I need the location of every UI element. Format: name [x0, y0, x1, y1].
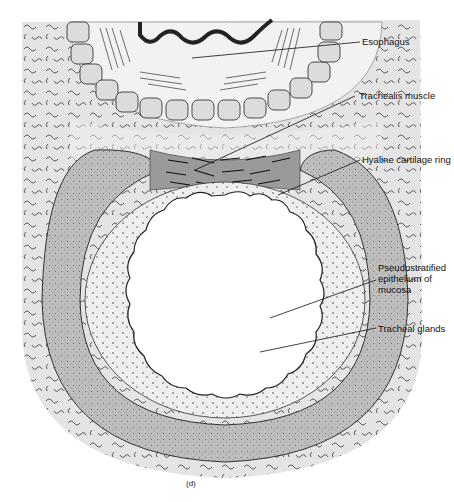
tracheal-lumen: [126, 192, 324, 398]
label-pseudostratified-epithelium: Pseudostratified epithelium of mucosa: [378, 262, 446, 295]
label-esophagus: Esophagus: [362, 36, 410, 47]
label-tracheal-glands: Tracheal glands: [378, 323, 445, 334]
trachea-diagram: [0, 0, 454, 502]
figure-caption: (d): [186, 479, 196, 488]
label-trachealis-muscle: Trachealis muscle: [359, 90, 435, 101]
label-hyaline-cartilage-ring: Hyaline cartilage ring: [362, 154, 451, 165]
